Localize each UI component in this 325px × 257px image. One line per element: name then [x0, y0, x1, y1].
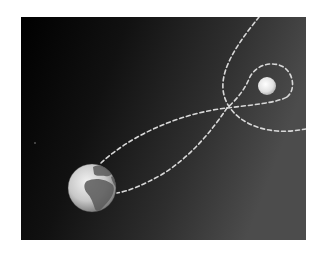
trajectory-diagram — [21, 17, 306, 240]
moon-icon — [258, 77, 276, 95]
earth-icon — [68, 164, 116, 212]
star — [34, 142, 36, 144]
diagram-canvas — [21, 17, 306, 240]
